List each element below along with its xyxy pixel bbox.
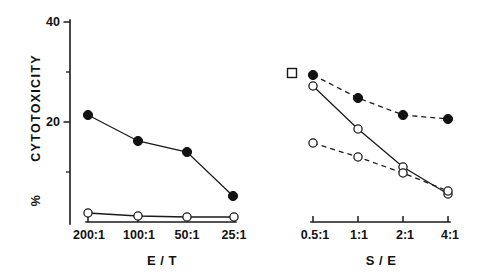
y-tick-label-40: 40 (46, 15, 60, 29)
right-x-tick-label-3: 4:1 (441, 228, 459, 242)
left-series-1-point-3 (228, 191, 237, 200)
right-series-2-line (313, 86, 448, 194)
figure-container: 40 20 CYTOTOXICITY % 200:1 100:1 50:1 (0, 0, 477, 277)
left-series-open-circle-solid (84, 209, 238, 221)
y-axis-label-group: CYTOTOXICITY % (29, 54, 43, 206)
right-x-tick-label-1: 1:1 (350, 228, 368, 242)
left-panel-group: 200:1 100:1 50:1 25:1 E / T (73, 110, 247, 268)
left-series-1-point-0 (83, 110, 92, 119)
left-x-axis-title: E / T (147, 253, 177, 268)
left-series-2-point-3 (230, 213, 238, 221)
left-series-2-point-2 (183, 213, 191, 221)
left-series-2-line (88, 213, 234, 217)
left-series-filled-circle-solid (83, 110, 237, 200)
right-series-2-point-0 (309, 82, 317, 90)
left-series-1-point-1 (133, 136, 142, 145)
right-series-3-point-3 (444, 187, 452, 195)
right-series-3-point-1 (354, 153, 362, 161)
right-series-open-circle-solid (309, 82, 452, 198)
right-series-1-line (313, 75, 448, 119)
right-series-2-point-1 (354, 125, 362, 133)
right-x-tick-label-0: 0.5:1 (301, 228, 330, 242)
y-axis-label-percent: % (29, 194, 43, 206)
right-series-1-point-2 (398, 110, 407, 119)
left-series-2-point-1 (134, 212, 142, 220)
cytotoxicity-chart-svg: 40 20 CYTOTOXICITY % 200:1 100:1 50:1 (0, 0, 477, 277)
right-x-axis-title: S / E (366, 253, 397, 268)
right-series-3-point-0 (309, 139, 317, 147)
left-x-tick-label-0: 200:1 (73, 228, 105, 242)
left-x-tick-label-1: 100:1 (123, 228, 155, 242)
left-x-tick-label-3: 25:1 (221, 228, 246, 242)
right-series-3-line (313, 143, 448, 191)
right-series-1-point-3 (443, 114, 452, 123)
y-tick-label-20: 20 (46, 115, 60, 129)
left-series-2-point-0 (84, 209, 92, 217)
right-series-1-point-0 (308, 70, 317, 79)
right-x-tick-label-2: 2:1 (396, 228, 414, 242)
right-panel-group: 0.5:1 1:1 2:1 4:1 S / E (288, 69, 460, 269)
y-axis-group: 40 20 (46, 15, 70, 224)
right-open-square-control-marker (288, 69, 297, 78)
y-axis-label-word: CYTOTOXICITY (29, 54, 43, 162)
right-series-3-point-2 (399, 169, 407, 177)
left-series-1-point-2 (182, 147, 191, 156)
right-series-1-point-1 (353, 93, 362, 102)
left-series-1-line (88, 115, 233, 196)
left-x-tick-label-2: 50:1 (174, 228, 199, 242)
right-series-filled-circle-dashed (308, 70, 452, 123)
